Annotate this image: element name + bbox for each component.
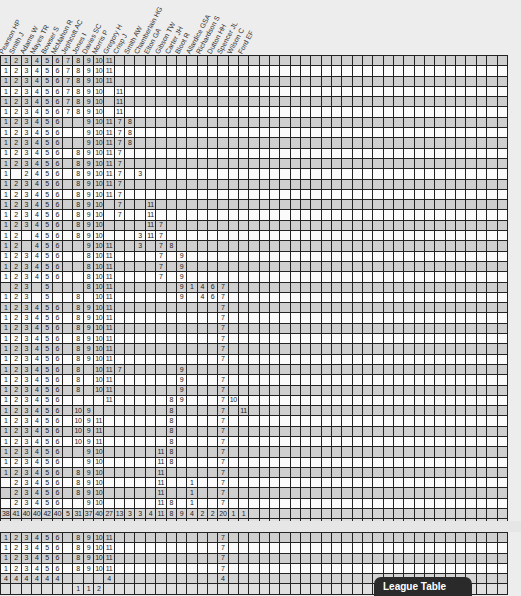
grid-cell: 10 (94, 189, 104, 199)
grid-cell (249, 543, 259, 553)
grid-cell (290, 385, 300, 395)
grid-cell (497, 364, 507, 374)
grid-cell (156, 574, 166, 584)
grid-cell (363, 584, 373, 594)
grid-cell (321, 406, 331, 416)
grid-cell (311, 128, 321, 138)
grid-cell (435, 344, 445, 354)
grid-cell (404, 344, 414, 354)
grid-cell (321, 303, 331, 313)
grid-cell: 8 (73, 478, 83, 488)
grid-cell (363, 148, 373, 158)
grid-cell: 7 (218, 533, 228, 543)
grid-cell (321, 375, 331, 385)
grid-cell (497, 128, 507, 138)
grid-cell (425, 303, 435, 313)
grid-cell (166, 128, 176, 138)
grid-cell (166, 334, 176, 344)
grid-cell (373, 344, 383, 354)
grid-cell (445, 533, 455, 543)
grid-cell (352, 200, 362, 210)
grid-cell (476, 584, 486, 594)
grid-cell (238, 231, 248, 241)
grid-cell (269, 323, 279, 333)
grid-cell (487, 97, 497, 107)
grid-cell (352, 138, 362, 148)
grid-cell (445, 509, 455, 519)
league-table-tab[interactable]: League Table (374, 577, 472, 596)
grid-cell (249, 231, 259, 241)
grid-cell (207, 303, 217, 313)
grid-cell: 6 (52, 354, 62, 364)
grid-cell: 7 (218, 323, 228, 333)
grid-cell (497, 563, 507, 573)
grid-cell (425, 97, 435, 107)
grid-cell (207, 457, 217, 467)
grid-cell (125, 313, 135, 323)
grid-cell: 4 (32, 488, 42, 498)
grid-cell (135, 76, 145, 86)
grid-cell (197, 395, 207, 405)
grid-cell (300, 97, 310, 107)
grid-cell (404, 354, 414, 364)
grid-cell (425, 436, 435, 446)
grid-cell (332, 364, 342, 374)
grid-cell (300, 86, 310, 96)
grid-cell (145, 158, 155, 168)
grid-cell (94, 395, 104, 405)
grid-cell: 3 (21, 189, 31, 199)
grid-cell (414, 509, 424, 519)
grid-cell (332, 200, 342, 210)
grid-cell (187, 344, 197, 354)
grid-cell (280, 179, 290, 189)
grid-cell (425, 200, 435, 210)
grid-cell (228, 200, 238, 210)
grid-cell (280, 364, 290, 374)
grid-cell: 2 (11, 447, 21, 457)
grid-cell (63, 117, 73, 127)
grid-cell (166, 210, 176, 220)
grid-cell (383, 241, 393, 251)
grid-cell: 5 (42, 563, 52, 573)
grid-cell (290, 584, 300, 594)
grid-cell: 8 (73, 313, 83, 323)
match-row: 1234568101179 (1, 261, 508, 271)
grid-cell (311, 574, 321, 584)
grid-cell (394, 509, 404, 519)
grid-cell (249, 533, 259, 543)
grid-cell (487, 231, 497, 241)
grid-cell (249, 117, 259, 127)
grid-cell (156, 395, 166, 405)
grid-cell (1, 584, 11, 594)
grid-cell (404, 220, 414, 230)
grid-cell: 1 (1, 364, 11, 374)
grid-cell: 3 (21, 436, 31, 446)
grid-cell (435, 76, 445, 86)
grid-cell (383, 86, 393, 96)
grid-cell: 10 (94, 241, 104, 251)
grid-cell (476, 543, 486, 553)
grid-cell (259, 261, 269, 271)
grid-cell (145, 447, 155, 457)
grid-cell (476, 261, 486, 271)
grid-cell (404, 158, 414, 168)
grid-cell (363, 436, 373, 446)
grid-cell (156, 553, 166, 563)
grid-cell (404, 467, 414, 477)
grid-cell: 10 (94, 210, 104, 220)
grid-cell (63, 543, 73, 553)
grid-cell (435, 426, 445, 436)
grid-cell (404, 56, 414, 66)
grid-cell (300, 509, 310, 519)
grid-cell (218, 231, 228, 241)
grid-cell (114, 323, 124, 333)
grid-cell (394, 406, 404, 416)
grid-cell (476, 231, 486, 241)
grid-cell (259, 179, 269, 189)
grid-cell: 7 (63, 97, 73, 107)
grid-cell: 1 (1, 334, 11, 344)
grid-cell (156, 179, 166, 189)
match-row: 1234567891011 (1, 97, 508, 107)
grid-cell (238, 200, 248, 210)
grid-cell: 11 (104, 272, 114, 282)
